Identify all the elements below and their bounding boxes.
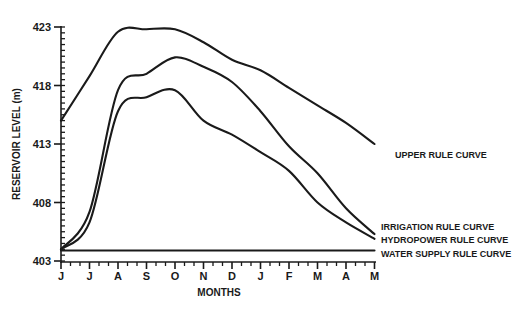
legend-water-supply-rule-curve: WATER SUPPLY RULE CURVE [381,249,511,259]
x-axis-tick-labels: JJASONDJFMAM [58,270,379,282]
y-axis-title: RESERVOIR LEVEL (m) [11,88,22,200]
x-tick-label: J [58,270,64,282]
x-tick-label: M [313,270,322,282]
x-tick-label: A [114,270,122,282]
x-tick-label: J [257,270,263,282]
y-axis-ticks [54,27,65,261]
irrigation-rule-curve-line [61,57,375,249]
y-tick-label: 413 [33,138,51,150]
x-tick-label: J [86,270,92,282]
legend-upper-rule-curve: UPPER RULE CURVE [395,150,487,160]
y-axis-tick-labels: 403408413418423 [33,21,51,267]
hydropower-rule-curve-line [61,89,375,249]
x-tick-label: M [370,270,379,282]
x-axis-ticks [61,262,375,269]
legend-irrigation-rule-curve: IRRIGATION RULE CURVE [381,222,494,232]
y-tick-label: 403 [33,255,51,267]
x-tick-label: F [286,270,293,282]
y-tick-label: 408 [33,197,51,209]
series-lines [61,28,375,251]
legend-hydropower-rule-curve: HYDROPOWER RULE CURVE [381,235,508,245]
x-tick-label: S [143,270,150,282]
y-tick-label: 423 [33,21,51,33]
y-tick-label: 418 [33,80,51,92]
x-tick-label: O [171,270,180,282]
x-tick-label: D [228,270,236,282]
x-tick-label: N [200,270,208,282]
x-axis-title: MONTHS [197,287,241,298]
reservoir-rule-curve-chart: 403408413418423 JJASONDJFMAM RESERVOIR L… [0,0,525,312]
x-tick-label: A [342,270,350,282]
